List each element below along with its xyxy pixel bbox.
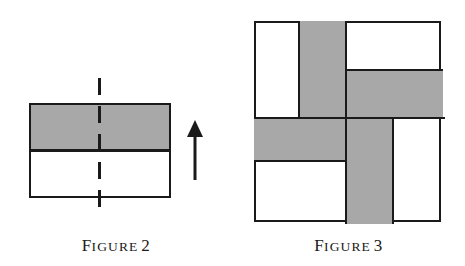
figure-3-tile-bottom-center-gray	[345, 117, 392, 224]
figure-3-gridline-vertical-1	[298, 21, 300, 117]
figure-2-caption-lead: F	[82, 236, 92, 255]
arrow-shaft	[194, 134, 197, 180]
figure-3-gridline-horizontal-2	[254, 117, 445, 119]
figure-3-caption-lead: F	[314, 236, 324, 255]
figure-3-tile-right-upper-gray	[345, 69, 443, 117]
figure-3-gridline-vertical-3	[392, 117, 394, 224]
figure-2-caption-number: 2	[141, 236, 150, 255]
figure-2-panel: FIGURE2	[0, 0, 232, 266]
figure-2-caption: FIGURE2	[0, 236, 232, 256]
figure-3-pinwheel-square	[254, 21, 441, 222]
figure-2-direction-arrow	[181, 120, 209, 180]
figure-3-caption: FIGURE3	[232, 236, 465, 256]
figure-3-panel: FIGURE3	[232, 0, 465, 266]
figure-3-caption-number: 3	[374, 236, 383, 255]
figure-3-caption-rest: IGURE	[324, 239, 371, 254]
figure-2-caption-rest: IGURE	[92, 239, 139, 254]
figure-3-gridline-horizontal-3	[254, 160, 347, 162]
figure-3-gridline-vertical-2	[345, 21, 347, 224]
figure-3-tile-top-center-gray	[298, 21, 345, 117]
figure-3-gridline-horizontal-1	[345, 69, 443, 71]
figure-2-mirror-axis-dashed-line	[98, 78, 101, 218]
figure-3-tile-left-middle-gray	[254, 117, 345, 160]
